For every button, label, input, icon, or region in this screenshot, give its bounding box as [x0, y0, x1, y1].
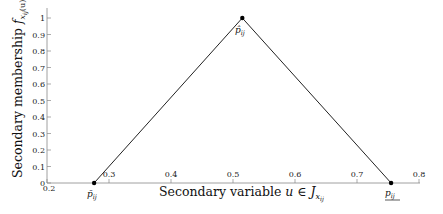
label-p-peak: p̂ij	[235, 25, 245, 37]
data-point	[240, 16, 244, 20]
y-tick-label: 0.8	[32, 47, 45, 56]
y-tick-label: 0.7	[32, 64, 45, 73]
y-tick-label: 0.5	[32, 97, 45, 106]
x-tick-label: 0.7	[351, 170, 364, 179]
series-line	[94, 18, 391, 183]
y-axis-title: Secondary membership fxij(u)/u	[10, 0, 29, 178]
y-tick-label: 0.1	[32, 163, 45, 172]
y-tick-label: 0.4	[32, 113, 45, 122]
y-tick-label: 1	[40, 14, 45, 23]
x-axis-title: Secondary variable u ∈ Jxij	[159, 184, 324, 203]
y-tick-label: 0.3	[32, 130, 45, 139]
y-tick-label: 0	[40, 179, 45, 188]
y-tick-label: 0.6	[32, 80, 45, 89]
y-tick-label: 0.2	[32, 146, 45, 155]
x-tick-label: 0.8	[413, 170, 426, 179]
x-tick-label: 0.6	[289, 170, 302, 179]
chart: 0.20.30.40.50.60.70.800.10.20.30.40.50.6…	[0, 0, 443, 214]
label-p-right: pij	[385, 188, 400, 200]
label-p-left: p̄ij	[87, 189, 97, 201]
data-point	[389, 181, 393, 185]
x-tick-label: 0.4	[165, 170, 178, 179]
y-tick-label: 0.9	[32, 31, 45, 40]
data-point	[92, 181, 96, 185]
svg-text:pij: pij	[385, 188, 395, 200]
x-tick-label: 0.5	[227, 170, 240, 179]
data-points	[92, 16, 393, 185]
data-series	[94, 18, 391, 183]
axes	[47, 8, 420, 183]
ticks: 0.20.30.40.50.60.70.800.10.20.30.40.50.6…	[32, 14, 425, 193]
